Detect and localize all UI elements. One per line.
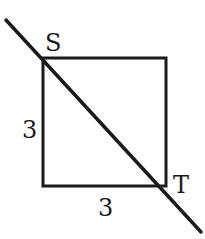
side-label-bottom: 3 (98, 194, 113, 222)
vertex-label-t: T (173, 171, 189, 199)
vertex-label-s: S (45, 29, 61, 57)
square (43, 58, 166, 186)
geometry-diagram: S T 3 3 (0, 0, 205, 239)
side-label-left: 3 (22, 116, 37, 144)
